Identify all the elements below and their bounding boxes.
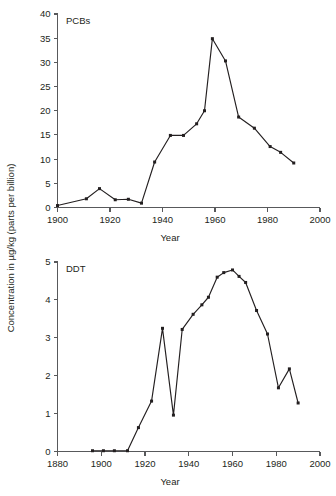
- ddt-data-point: [161, 327, 164, 330]
- pcbs-data-point: [169, 134, 172, 137]
- pcbs-data-line: [58, 39, 294, 206]
- pcbs-y-tick-label: 0: [45, 202, 50, 213]
- ddt-data-point: [238, 275, 241, 278]
- pcbs-data-point: [292, 162, 295, 165]
- pcbs-data-point: [269, 145, 272, 148]
- pcbs-data-point: [253, 127, 256, 130]
- ddt-data-point: [244, 281, 247, 284]
- ddt-data-point: [137, 426, 140, 429]
- pollutant-concentration-figure: Concentration in µg/kg (parts per billio…: [0, 0, 336, 496]
- pcbs-y-tick-label: 25: [40, 81, 51, 92]
- pcbs-y-tick-label: 20: [40, 105, 51, 116]
- pcbs-x-tick-label: 1960: [204, 214, 225, 225]
- ddt-data-markers: [91, 268, 300, 452]
- ddt-data-point: [150, 400, 153, 403]
- ddt-y-tick-label: 2: [45, 370, 50, 381]
- pcbs-y-tick-label: 40: [40, 8, 51, 19]
- pcbs-x-tick-label: 2000: [309, 214, 330, 225]
- pcbs-x-tick-label: 1920: [99, 214, 120, 225]
- pcbs-data-point: [98, 187, 101, 190]
- pcbs-data-point: [237, 116, 240, 119]
- ddt-data-point: [207, 296, 210, 299]
- pcbs-data-point: [279, 151, 282, 154]
- ddt-data-point: [113, 449, 116, 452]
- pcbs-x-tick-label: 1980: [257, 214, 278, 225]
- ddt-y-tick-label: 4: [45, 294, 50, 305]
- ddt-x-tick-label: 1880: [47, 458, 68, 469]
- pcbs-y-tick-label: 30: [40, 57, 51, 68]
- ddt-data-point: [255, 309, 258, 312]
- ddt-x-tick-group: 1880190019201940196019802000: [47, 452, 331, 469]
- pcbs-x-axis-label: Year: [160, 232, 179, 243]
- ddt-data-point: [181, 328, 184, 331]
- chart-panel-pcbs: PCBs 0510152025303540 190019201940196019…: [40, 8, 331, 243]
- pcbs-x-tick-label: 1900: [47, 214, 68, 225]
- ddt-data-point: [222, 271, 225, 274]
- ddt-data-point: [91, 449, 94, 452]
- ddt-data-point: [266, 333, 269, 336]
- pcbs-data-point: [182, 134, 185, 137]
- pcbs-data-point: [203, 109, 206, 112]
- ddt-data-point: [172, 414, 175, 417]
- panel-title-pcbs: PCBs: [66, 15, 91, 26]
- pcbs-data-point: [140, 202, 143, 205]
- pcbs-y-tick-label: 15: [40, 129, 51, 140]
- ddt-data-point: [102, 449, 105, 452]
- pcbs-data-point: [211, 37, 214, 40]
- ddt-x-tick-label: 1940: [178, 458, 199, 469]
- ddt-y-tick-group: 012345: [45, 256, 57, 457]
- ddt-x-axis-label: Year: [160, 476, 179, 487]
- ddt-x-tick-label: 1980: [266, 458, 287, 469]
- pcbs-data-point: [114, 198, 117, 201]
- ddt-data-point: [297, 401, 300, 404]
- ddt-y-tick-label: 1: [45, 408, 50, 419]
- pcbs-y-tick-label: 35: [40, 33, 51, 44]
- pcbs-data-point: [85, 197, 88, 200]
- ddt-data-point: [192, 313, 195, 316]
- pcbs-data-point: [153, 161, 156, 164]
- pcbs-y-tick-group: 0510152025303540: [40, 8, 58, 213]
- ddt-x-tick-label: 1900: [91, 458, 112, 469]
- ddt-data-point: [277, 386, 280, 389]
- ddt-x-tick-label: 1920: [134, 458, 155, 469]
- ddt-data-point: [126, 449, 129, 452]
- pcbs-data-markers: [56, 37, 295, 207]
- pcbs-x-tick-label: 1940: [152, 214, 173, 225]
- ddt-y-tick-label: 0: [45, 446, 50, 457]
- ddt-data-line: [93, 270, 299, 451]
- ddt-y-tick-label: 3: [45, 332, 50, 343]
- ddt-y-tick-label: 5: [45, 256, 50, 267]
- chart-panel-ddt: DDT 012345 1880190019201940196019802000 …: [45, 256, 330, 487]
- ddt-data-point: [288, 367, 291, 370]
- panel-title-ddt: DDT: [66, 263, 86, 274]
- figure-canvas: Concentration in µg/kg (parts per billio…: [0, 0, 336, 496]
- pcbs-data-point: [224, 59, 227, 62]
- ddt-x-tick-label: 1960: [222, 458, 243, 469]
- y-axis-label-shared: Concentration in µg/kg (parts per billio…: [5, 164, 16, 333]
- ddt-x-tick-label: 2000: [309, 458, 330, 469]
- ddt-data-point: [200, 303, 203, 306]
- pcbs-y-tick-label: 5: [45, 178, 50, 189]
- pcbs-x-tick-group: 190019201940196019802000: [47, 208, 331, 225]
- pcbs-data-point: [195, 122, 198, 125]
- pcbs-y-tick-label: 10: [40, 154, 51, 165]
- pcbs-data-point: [56, 204, 59, 207]
- pcbs-data-point: [127, 198, 130, 201]
- ddt-data-point: [231, 268, 234, 271]
- ddt-data-point: [216, 276, 219, 279]
